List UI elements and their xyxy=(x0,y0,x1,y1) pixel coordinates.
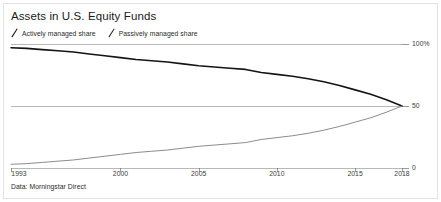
y-axis-label: 100% xyxy=(412,40,430,47)
legend-item-active[interactable]: Actively managed share xyxy=(11,29,96,38)
x-axis-label: 1993 xyxy=(11,170,26,177)
chart-svg xyxy=(11,44,402,168)
x-axis-labels: 199320002005201020152018 xyxy=(11,170,402,182)
source-note: Data: Morningstar Direct xyxy=(11,183,86,190)
y-axis-label: 50 xyxy=(412,102,420,109)
chart-card: Assets in U.S. Equity Funds Actively man… xyxy=(0,0,441,202)
x-axis-label: 2005 xyxy=(191,170,206,177)
series-line xyxy=(11,106,402,164)
x-axis-label: 2018 xyxy=(394,170,409,177)
chart-title: Assets in U.S. Equity Funds xyxy=(11,10,156,22)
x-axis-label: 2010 xyxy=(269,170,284,177)
gridlines xyxy=(11,45,402,169)
chart-legend: Actively managed share Passively managed… xyxy=(11,29,198,38)
slash-icon xyxy=(11,29,19,38)
y-axis-tickmarks xyxy=(402,45,409,169)
legend-label-passive: Passively managed share xyxy=(119,30,198,37)
x-axis-label: 2015 xyxy=(347,170,362,177)
legend-item-passive[interactable]: Passively managed share xyxy=(108,29,198,38)
chart-content: Assets in U.S. Equity Funds Actively man… xyxy=(0,0,441,202)
x-axis-label: 2000 xyxy=(113,170,128,177)
plot-area: 050100% xyxy=(11,44,402,168)
slash-icon xyxy=(108,29,116,38)
series-line xyxy=(11,48,402,106)
legend-label-active: Actively managed share xyxy=(22,30,96,37)
y-axis-label: 0 xyxy=(412,164,416,171)
data-series xyxy=(11,48,402,165)
